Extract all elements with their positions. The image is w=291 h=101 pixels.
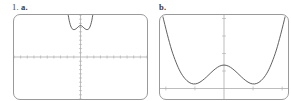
problem-letter-a: a. [21, 2, 28, 12]
worksheet-page: 1. a. b. [0, 0, 291, 101]
calculator-screen-a [13, 14, 148, 100]
problem-label-1b: b. [159, 2, 166, 12]
calculator-screen-b [159, 14, 289, 100]
graph-a-plot-area [14, 15, 147, 99]
problem-letter-b: b. [159, 2, 166, 12]
problem-label-1a: 1. a. [12, 2, 28, 12]
problem-number: 1. [12, 2, 19, 12]
graph-b-plot-area [160, 15, 288, 99]
